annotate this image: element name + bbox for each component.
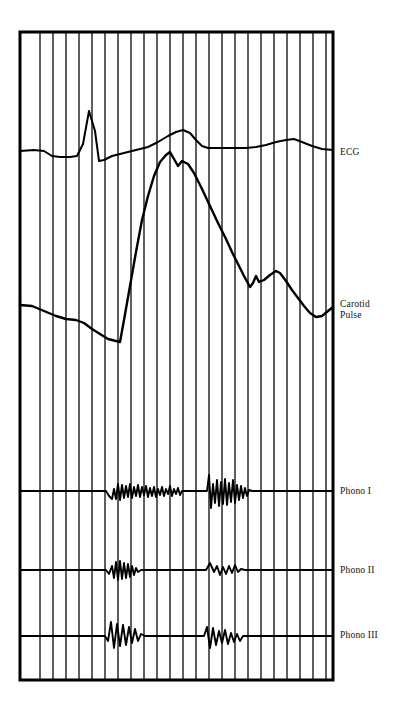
trace-canvas [0,0,402,719]
trace-label-phono-i: Phono I [340,486,371,497]
figure-background [0,0,402,719]
trace-label-carotid-pulse: Carotid Pulse [340,299,370,321]
trace-label-phono-ii: Phono II [340,565,375,576]
phonocardiogram-figure: ECG Carotid Pulse Phono I Phono II Phono… [0,0,402,719]
trace-label-phono-iii: Phono III [340,630,378,641]
trace-label-ecg: ECG [340,147,360,158]
